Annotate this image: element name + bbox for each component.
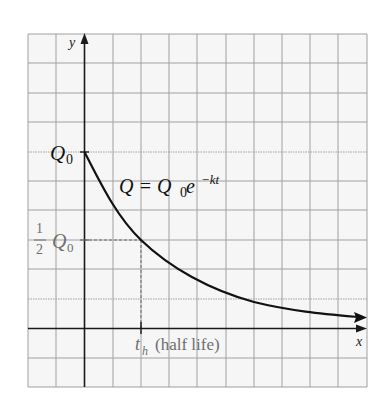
svg-text:(half life): (half life) (155, 335, 220, 354)
svg-text:0: 0 (67, 240, 74, 255)
svg-text:Q: Q (50, 141, 65, 165)
svg-text:Q: Q (52, 230, 67, 252)
svg-text:2: 2 (36, 242, 43, 257)
svg-text:−kt: −kt (201, 172, 220, 187)
svg-text:Q = Q: Q = Q (119, 175, 172, 197)
svg-text:h: h (142, 344, 148, 358)
svg-text:0: 0 (66, 152, 73, 167)
y-axis-label: y (67, 35, 76, 50)
svg-text:e: e (186, 175, 195, 197)
x-axis-label: x (355, 334, 363, 349)
svg-text:1: 1 (36, 221, 43, 236)
decay-graph: y x Q 0 1 2 Q 0 Q = Q 0 e −kt t h (half … (0, 0, 388, 415)
